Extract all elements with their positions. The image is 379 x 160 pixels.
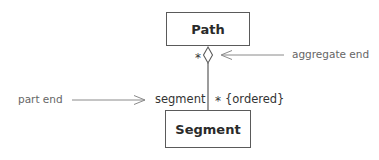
- class-path[interactable]: Path: [166, 12, 250, 46]
- aggregation-diamond-icon: [204, 47, 213, 63]
- part-end-multiplicity: *: [215, 95, 221, 107]
- part-end-annotation: part end: [18, 94, 63, 105]
- part-end-role-name: segment: [155, 94, 205, 106]
- uml-diagram-canvas: Path Segment * aggregate end part end se…: [0, 0, 379, 160]
- class-segment[interactable]: Segment: [165, 110, 251, 148]
- class-segment-name: Segment: [175, 122, 240, 137]
- aggregate-end-annotation: aggregate end: [292, 49, 369, 60]
- whole-end-multiplicity: *: [195, 52, 201, 64]
- class-path-name: Path: [191, 22, 224, 37]
- part-end-constraint: {ordered}: [225, 94, 284, 106]
